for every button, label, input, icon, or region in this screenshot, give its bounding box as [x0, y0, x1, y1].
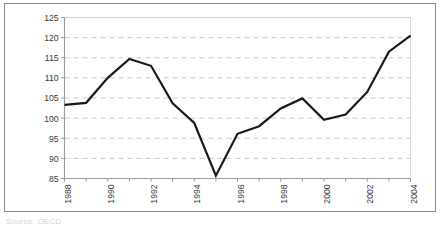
y-tick-label: 115	[45, 53, 59, 63]
y-tick-label: 95	[49, 134, 59, 144]
x-tick-label: 2000	[322, 184, 332, 203]
line-chart-plot: 8590951001051101151201251988199019921994…	[0, 0, 448, 227]
y-tick-label: 105	[44, 93, 59, 103]
x-tick-label: 1996	[236, 184, 246, 203]
x-tick-label: 1998	[279, 184, 289, 203]
y-tick-label: 120	[44, 33, 59, 43]
data-line-series-index	[65, 36, 411, 176]
x-tick-label: 1990	[106, 184, 116, 203]
y-tick-label: 90	[49, 154, 59, 164]
x-tick-label: 2004	[409, 184, 419, 203]
y-tick-label: 110	[45, 73, 59, 83]
source-note: Source: OECD	[6, 217, 61, 227]
x-tick-label: 1988	[63, 184, 73, 203]
chart-figure: 8590951001051101151201251988199019921994…	[0, 0, 448, 227]
x-tick-label: 2002	[365, 184, 375, 203]
y-tick-label: 100	[44, 114, 59, 124]
x-tick-label: 1992	[149, 184, 159, 203]
y-tick-label: 125	[44, 13, 59, 23]
x-tick-label: 1994	[192, 184, 202, 203]
y-tick-label: 85	[49, 174, 59, 184]
